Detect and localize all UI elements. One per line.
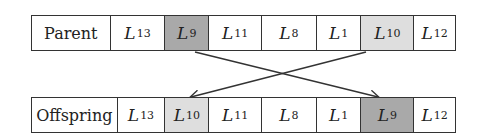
parent-gene-6: L10 [361, 16, 414, 50]
arrow-l9-to-position-6 [195, 52, 378, 97]
parent-label: Parent [32, 16, 111, 50]
parent-gene-7: L12 [414, 16, 455, 50]
parent-chromosome: Parent L13 L9 L11 L8 L1 L10 L12 [31, 15, 456, 51]
parent-gene-3: L11 [209, 16, 262, 50]
offspring-gene-1: L13 [118, 98, 166, 132]
offspring-gene-3: L11 [209, 98, 262, 132]
offspring-label: Offspring [32, 98, 118, 132]
offspring-gene-6: L9 [361, 98, 414, 132]
offspring-chromosome: Offspring L13 L10 L11 L8 L1 L9 L12 [31, 97, 456, 133]
offspring-gene-5: L1 [317, 98, 362, 132]
parent-gene-5: L1 [317, 16, 362, 50]
offspring-gene-7: L12 [414, 98, 455, 132]
offspring-gene-2: L10 [165, 98, 209, 132]
parent-gene-2: L9 [165, 16, 209, 50]
offspring-gene-4: L8 [262, 98, 317, 132]
parent-gene-4: L8 [262, 16, 317, 50]
parent-gene-1: L13 [111, 16, 166, 50]
arrow-l10-to-position-2 [191, 52, 366, 97]
